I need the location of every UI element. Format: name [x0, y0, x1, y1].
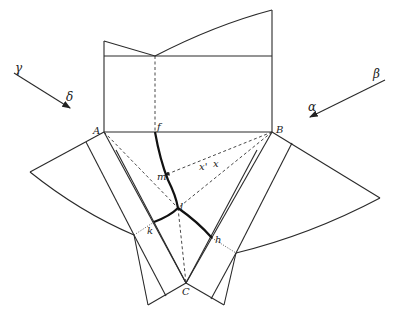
label-beta: β — [372, 67, 380, 81]
beta-alpha-arrow — [310, 80, 385, 117]
top-flap — [104, 10, 272, 132]
label-A: A — [92, 125, 100, 136]
label-x: x — [213, 158, 219, 169]
label-x-prime: x' — [199, 161, 207, 172]
label-l: l — [180, 201, 183, 212]
geometric-net-diagram: A B C f m l k h x' x γ δ α β — [0, 0, 394, 316]
gamma-delta-arrow — [14, 73, 70, 108]
construction-lines — [104, 132, 272, 283]
label-h: h — [215, 234, 221, 245]
label-gamma: γ — [15, 61, 23, 75]
label-B: B — [275, 124, 283, 135]
label-alpha: α — [308, 100, 316, 114]
label-f: f — [156, 121, 163, 132]
fold-path — [154, 132, 212, 238]
label-k: k — [147, 225, 153, 236]
label-delta: δ — [66, 90, 73, 104]
label-C: C — [182, 286, 190, 297]
label-m: m — [157, 171, 166, 182]
